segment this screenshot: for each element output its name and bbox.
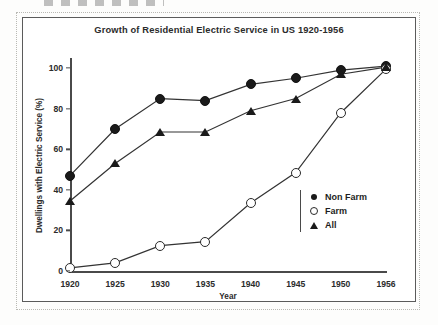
data-point-marker bbox=[336, 108, 346, 118]
x-tick-label: 1925 bbox=[106, 279, 125, 289]
data-point-marker bbox=[110, 159, 120, 167]
y-tick-mark bbox=[66, 108, 70, 109]
y-tick-mark bbox=[66, 149, 70, 150]
filled-triangle-icon-glyph bbox=[310, 222, 318, 229]
data-point-marker bbox=[155, 241, 165, 251]
data-point-marker bbox=[65, 171, 75, 181]
data-point-marker bbox=[246, 198, 256, 208]
legend-item: Farm bbox=[308, 204, 367, 218]
filled-circle-icon bbox=[308, 194, 320, 201]
y-tick-label: 80 bbox=[53, 104, 63, 114]
series-line bbox=[70, 69, 386, 268]
y-tick-mark bbox=[66, 67, 70, 68]
x-tick-label: 1930 bbox=[151, 279, 170, 289]
scan-artifact bbox=[44, 0, 164, 6]
legend-item: All bbox=[308, 218, 367, 232]
x-tick-label: 1956 bbox=[376, 279, 395, 289]
y-tick-mark bbox=[66, 270, 70, 271]
data-point-marker bbox=[110, 258, 120, 268]
y-axis-label: Dwellings with Electric Service (%) bbox=[34, 60, 46, 271]
filled-circle-icon-glyph bbox=[311, 194, 318, 201]
legend-item-label: All bbox=[325, 220, 337, 230]
y-tick-label: 40 bbox=[53, 185, 63, 195]
x-tick-label: 1950 bbox=[331, 279, 350, 289]
data-point-marker bbox=[155, 128, 165, 136]
open-circle-icon-glyph bbox=[310, 207, 319, 216]
data-point-marker bbox=[291, 73, 301, 83]
y-axis-label-text: Dwellings with Electric Service (%) bbox=[36, 98, 45, 233]
data-point-marker bbox=[246, 79, 256, 89]
x-tick-label: 1940 bbox=[241, 279, 260, 289]
legend-item-label: Non Farm bbox=[325, 192, 367, 202]
data-point-marker bbox=[200, 237, 210, 247]
legend-item-label: Farm bbox=[325, 206, 347, 216]
data-point-marker bbox=[200, 96, 210, 106]
scanned-chart-page: Growth of Residential Electric Service i… bbox=[0, 0, 438, 325]
filled-triangle-icon bbox=[308, 222, 320, 229]
chart-title: Growth of Residential Electric Service i… bbox=[0, 25, 438, 35]
chart-legend: Non FarmFarmAll bbox=[300, 190, 367, 232]
y-tick-label: 100 bbox=[49, 63, 63, 73]
data-point-marker bbox=[65, 197, 75, 205]
data-point-marker bbox=[291, 95, 301, 103]
x-tick-label: 1945 bbox=[286, 279, 305, 289]
x-axis-line bbox=[69, 271, 387, 273]
data-point-marker bbox=[200, 128, 210, 136]
y-tick-label: 0 bbox=[58, 266, 63, 276]
x-tick-label: 1920 bbox=[60, 279, 79, 289]
y-tick-mark bbox=[66, 230, 70, 231]
y-tick-label: 20 bbox=[53, 225, 63, 235]
legend-item: Non Farm bbox=[308, 190, 367, 204]
y-tick-mark bbox=[66, 189, 70, 190]
data-point-marker bbox=[110, 124, 120, 134]
x-axis-label: Year bbox=[70, 292, 386, 301]
y-tick-label: 60 bbox=[53, 144, 63, 154]
series-line bbox=[70, 67, 386, 201]
open-circle-icon bbox=[308, 207, 320, 216]
data-point-marker bbox=[246, 107, 256, 115]
x-tick-label: 1935 bbox=[196, 279, 215, 289]
data-point-marker bbox=[155, 94, 165, 104]
data-point-marker bbox=[336, 70, 346, 78]
data-point-marker bbox=[381, 63, 391, 71]
plot-area: 020406080100 192019251930193519401945195… bbox=[70, 60, 386, 271]
data-point-marker bbox=[291, 168, 301, 178]
